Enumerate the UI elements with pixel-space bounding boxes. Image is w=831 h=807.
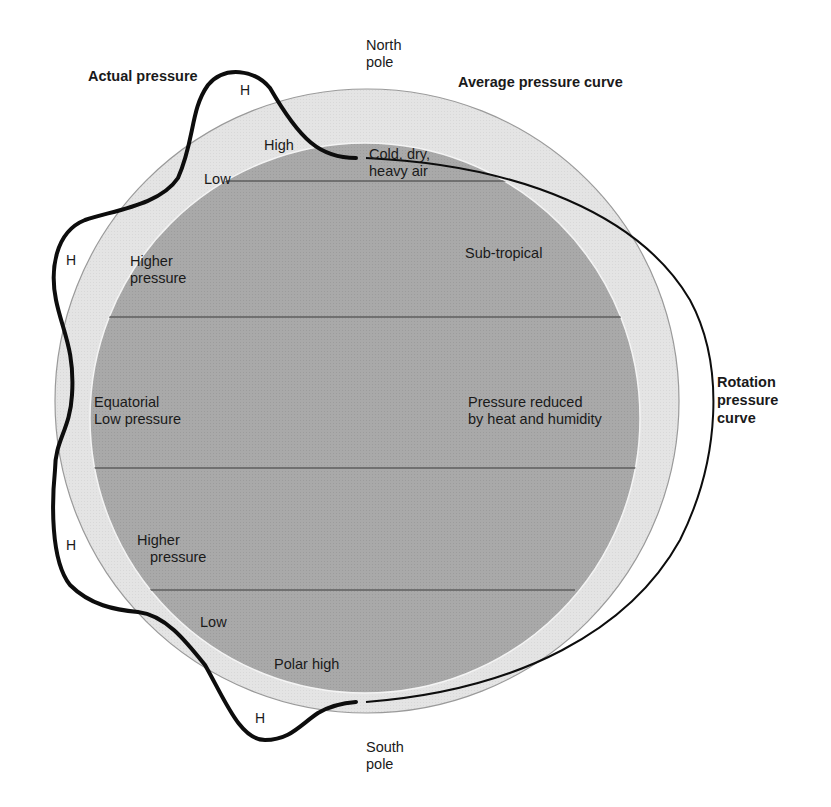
south-higher-line-2: pressure [137, 549, 206, 566]
high-marker-south-mid: H [66, 537, 76, 554]
south-pole-label: South pole [366, 739, 404, 773]
north-higher-line-1: Higher [130, 253, 186, 270]
zone-label-south-higher-pressure: Higher pressure [137, 532, 206, 566]
rotation-label-line-2: pressure [717, 391, 778, 409]
zone-label-south-low: Low [200, 614, 227, 631]
zone-label-pressure-reduced: Pressure reduced by heat and humidity [468, 394, 602, 428]
zone-label-north-high: High [264, 137, 294, 154]
zone-label-north-higher-pressure: Higher pressure [130, 253, 186, 287]
average-pressure-curve-label: Average pressure curve [458, 74, 623, 91]
high-marker-north: H [240, 82, 250, 99]
actual-pressure-label: Actual pressure [88, 68, 198, 85]
cold-dry-line-1: Cold, dry, [369, 146, 430, 163]
equatorial-line-2: Low pressure [94, 411, 181, 428]
south-pole-line-1: South [366, 739, 404, 756]
pressure-reduced-line-1: Pressure reduced [468, 394, 602, 411]
cold-dry-line-2: heavy air [369, 163, 430, 180]
north-pole-line-2: pole [366, 54, 401, 71]
rotation-label-line-3: curve [717, 409, 778, 427]
pressure-reduced-line-2: by heat and humidity [468, 411, 602, 428]
zone-label-polar-high: Polar high [274, 656, 339, 673]
zone-label-north-low: Low [204, 171, 231, 188]
high-marker-south: H [255, 710, 265, 727]
zone-label-equatorial: Equatorial Low pressure [94, 394, 181, 428]
equatorial-line-1: Equatorial [94, 394, 181, 411]
zone-label-sub-tropical: Sub-tropical [465, 245, 542, 262]
north-higher-line-2: pressure [130, 270, 186, 287]
north-pole-line-1: North [366, 37, 401, 54]
north-pole-label: North pole [366, 37, 401, 71]
rotation-label-line-1: Rotation [717, 373, 778, 391]
high-marker-north-mid: H [66, 252, 76, 269]
south-pole-line-2: pole [366, 756, 404, 773]
south-higher-line-1: Higher [137, 532, 206, 549]
rotation-pressure-curve-label: Rotation pressure curve [717, 373, 778, 427]
zone-label-cold-dry: Cold, dry, heavy air [369, 146, 430, 180]
